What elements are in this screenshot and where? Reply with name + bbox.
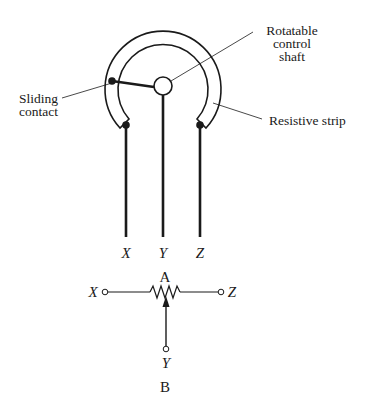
wiper-arrow-icon [163, 296, 170, 307]
caption-a: A [160, 269, 171, 285]
panel-b-labels: X Z Y B [87, 284, 236, 395]
potentiometer-diagram: Rotatable control shaft Sliding contact … [0, 0, 368, 410]
panel-a [62, 31, 262, 237]
panel-b [102, 286, 224, 352]
label-resistive-strip: Resistive strip [269, 113, 346, 128]
terminal-y-circle [163, 346, 169, 352]
caption-b: B [160, 379, 170, 395]
schematic-x-label: X [87, 284, 98, 300]
resistor-zigzag-icon [150, 286, 180, 298]
leader-strip [213, 103, 262, 119]
terminal-x-label: X [120, 245, 131, 261]
terminal-z-label: Z [196, 245, 205, 261]
shaft-circle [154, 77, 172, 95]
terminal-x-circle [102, 289, 108, 295]
terminal-z-circle [218, 289, 224, 295]
panel-a-labels: Rotatable control shaft Sliding contact … [19, 23, 346, 285]
schematic-z-label: Z [228, 284, 237, 300]
label-slider-2: contact [19, 104, 58, 119]
label-shaft-3: shaft [279, 49, 305, 64]
terminal-y-label: Y [159, 245, 169, 261]
schematic-y-label: Y [162, 355, 172, 371]
